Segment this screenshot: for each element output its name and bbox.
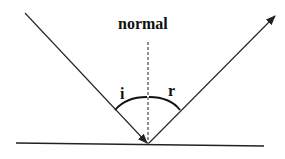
reflecting-surface [16,143,264,146]
reflection-diagram: normal i r [0,0,285,159]
incident-angle-label: i [120,85,125,102]
reflected-angle-arc [149,97,180,110]
normal-label: normal [118,15,168,32]
incident-ray [25,13,147,143]
reflected-ray [149,16,275,143]
reflected-angle-label: r [168,82,175,99]
